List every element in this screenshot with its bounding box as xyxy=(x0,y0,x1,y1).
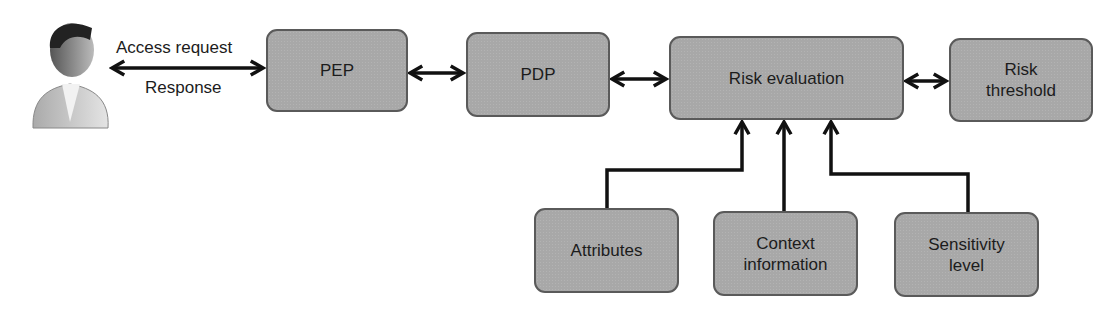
risk-evaluation-label: Risk evaluation xyxy=(729,68,844,89)
attributes-arrow xyxy=(607,122,742,208)
access-request-label: Access request xyxy=(116,38,232,58)
context-line1: Context xyxy=(756,233,815,254)
pep-label: PEP xyxy=(320,60,354,81)
risk-threshold-line1: Risk xyxy=(1004,59,1037,80)
pep-node: PEP xyxy=(266,29,408,112)
pdp-label: PDP xyxy=(521,64,556,85)
sensitivity-line1: Sensitivity xyxy=(928,234,1005,255)
attributes-node: Attributes xyxy=(534,208,679,293)
sensitivity-level-node: Sensitivity level xyxy=(894,212,1039,297)
risk-threshold-line2: threshold xyxy=(986,80,1056,101)
attributes-label: Attributes xyxy=(571,240,643,261)
response-label: Response xyxy=(145,78,222,98)
sensitivity-line2: level xyxy=(949,255,984,276)
risk-evaluation-node: Risk evaluation xyxy=(669,36,904,120)
sensitivity-arrow xyxy=(831,122,968,212)
user-icon xyxy=(30,18,112,133)
context-line2: information xyxy=(743,254,827,275)
risk-threshold-node: Risk threshold xyxy=(949,38,1093,122)
context-information-node: Context information xyxy=(713,211,858,296)
pdp-node: PDP xyxy=(466,32,610,117)
